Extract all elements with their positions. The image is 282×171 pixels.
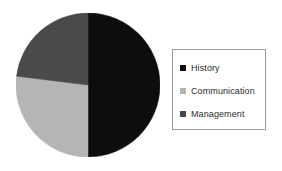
legend-swatch-management xyxy=(180,111,186,117)
pie-chart-figure: History Communication Management xyxy=(0,0,282,171)
legend-item-communication[interactable]: Communication xyxy=(180,84,262,98)
legend-label-communication: Communication xyxy=(191,86,255,96)
legend-swatch-communication xyxy=(180,88,186,94)
legend-item-history[interactable]: History xyxy=(180,61,262,75)
legend-item-management[interactable]: Management xyxy=(180,107,262,121)
pie-slices-group xyxy=(16,13,160,157)
legend-label-management: Management xyxy=(191,109,245,119)
legend-items-list: History Communication Management xyxy=(180,56,262,125)
legend-label-history: History xyxy=(191,63,220,73)
pie-svg xyxy=(16,13,160,157)
pie-slice-history[interactable] xyxy=(88,13,160,157)
pie-slice-management[interactable] xyxy=(17,13,88,85)
legend-swatch-history xyxy=(180,65,186,71)
pie-slice-communication[interactable] xyxy=(16,76,88,157)
chart-legend: History Communication Management xyxy=(172,49,266,130)
pie-chart-plot-area xyxy=(16,13,160,157)
